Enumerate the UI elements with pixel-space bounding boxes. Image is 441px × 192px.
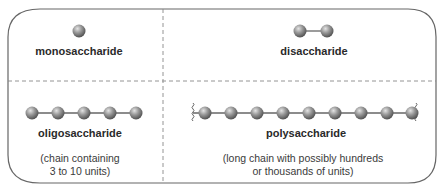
oligosaccharide-label: oligosaccharide bbox=[38, 127, 122, 139]
monosaccharide-label: monosaccharide bbox=[35, 45, 122, 57]
polysaccharide-description-line1: (long chain with possibly hundreds bbox=[223, 152, 384, 165]
oligosaccharide-description: (chain containing 3 to 10 units) bbox=[40, 152, 119, 178]
oligosaccharide-description-line1: (chain containing bbox=[40, 152, 119, 165]
polysaccharide-label: polysaccharide bbox=[266, 127, 346, 139]
disaccharide-label: disaccharide bbox=[280, 45, 347, 57]
oligosaccharide-description-line2: 3 to 10 units) bbox=[40, 165, 119, 178]
polysaccharide-description: (long chain with possibly hundreds or th… bbox=[223, 152, 384, 178]
chain-break-left-icon bbox=[192, 103, 194, 121]
polysaccharide-chain-icon bbox=[192, 103, 419, 121]
polysaccharide-description-line2: or thousands of units) bbox=[223, 165, 384, 178]
monosaccharide-molecule-icon bbox=[73, 25, 86, 38]
oligosaccharide-chain-icon bbox=[26, 107, 143, 120]
disaccharide-molecule-icon bbox=[294, 25, 334, 38]
